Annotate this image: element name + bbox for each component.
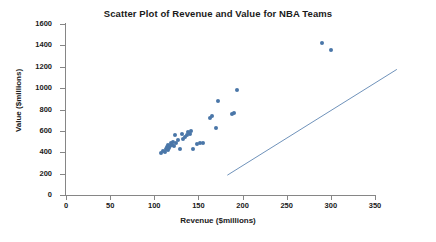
y-axis-tick-label: 600 <box>0 126 52 135</box>
y-axis-tick <box>60 67 65 68</box>
y-axis-tick-label: 800 <box>0 105 52 114</box>
y-axis-tick <box>60 174 65 175</box>
data-point <box>232 111 236 115</box>
y-axis-tick <box>60 45 65 46</box>
y-axis-tick-label: 0 <box>0 190 52 199</box>
y-axis-tick <box>60 131 65 132</box>
y-axis-tick-label: 1600 <box>0 19 52 28</box>
y-axis-tick <box>60 110 65 111</box>
y-axis-tick-label: 1200 <box>0 62 52 71</box>
x-axis-tick <box>110 195 111 200</box>
x-axis-tick-label: 50 <box>90 201 130 210</box>
y-axis-tick-label: 200 <box>0 169 52 178</box>
data-point <box>210 114 214 118</box>
data-point <box>329 48 333 52</box>
x-axis-tick-label: 0 <box>46 201 86 210</box>
plot-area <box>66 24 375 195</box>
chart-title: Scatter Plot of Revenue and Value for NB… <box>0 8 436 19</box>
y-axis-tick <box>60 152 65 153</box>
x-axis-title: Revenue ($millions) <box>0 216 436 225</box>
trendline <box>132 48 436 219</box>
data-point <box>216 99 220 103</box>
y-axis-title: Value ($millions) <box>14 41 23 161</box>
x-axis-tick <box>66 195 67 200</box>
y-axis-tick <box>60 88 65 89</box>
data-point <box>178 147 182 151</box>
data-point <box>235 88 239 92</box>
y-axis-tick-label: 1000 <box>0 83 52 92</box>
y-axis-tick-label: 1400 <box>0 40 52 49</box>
data-point <box>320 41 324 45</box>
y-axis-tick <box>60 24 65 25</box>
y-axis-tick-label: 400 <box>0 147 52 156</box>
y-axis-tick <box>60 195 65 196</box>
scatter-chart: Scatter Plot of Revenue and Value for NB… <box>0 0 436 242</box>
data-point <box>214 126 218 130</box>
data-point <box>201 141 205 145</box>
